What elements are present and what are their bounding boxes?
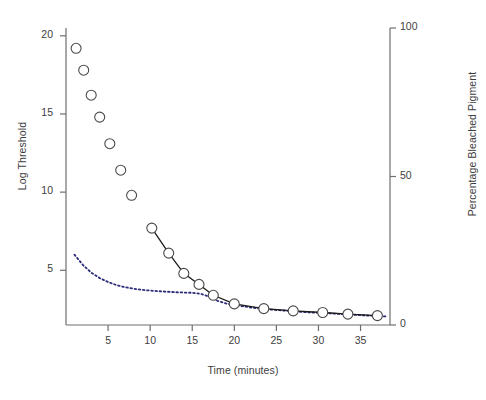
data-point-marker bbox=[229, 299, 239, 309]
data-point-marker bbox=[95, 112, 105, 122]
data-point-marker bbox=[116, 165, 126, 175]
x-tick-label: 25 bbox=[256, 334, 296, 346]
data-point-marker bbox=[194, 279, 204, 289]
data-point-marker bbox=[343, 309, 353, 319]
x-tick-label: 35 bbox=[341, 334, 381, 346]
x-axis-title: Time (minutes) bbox=[163, 364, 323, 376]
data-point-marker bbox=[318, 308, 328, 318]
tick-marks bbox=[60, 28, 396, 331]
y-tick-label-left: 15 bbox=[13, 106, 53, 118]
y-tick-label-right: 50 bbox=[400, 169, 440, 181]
data-point-marker bbox=[105, 139, 115, 149]
y-tick-label-right: 0 bbox=[400, 317, 440, 329]
y-tick-label-left: 20 bbox=[13, 28, 53, 40]
data-point-marker bbox=[71, 43, 81, 53]
figure-container: Log Threshold Percentage Bleached Pigmen… bbox=[0, 0, 486, 400]
data-point-marker bbox=[259, 304, 269, 314]
data-point-marker bbox=[164, 248, 174, 258]
x-tick-label: 10 bbox=[130, 334, 170, 346]
data-point-marker bbox=[288, 306, 298, 316]
data-point-marker bbox=[86, 90, 96, 100]
series-layer bbox=[71, 43, 386, 320]
x-tick-label: 30 bbox=[298, 334, 338, 346]
x-tick-label: 20 bbox=[214, 334, 254, 346]
data-point-marker bbox=[179, 268, 189, 278]
y-tick-label-left: 10 bbox=[13, 184, 53, 196]
data-point-marker bbox=[147, 223, 157, 233]
x-tick-label: 5 bbox=[88, 334, 128, 346]
y-axis-right-title: Percentage Bleached Pigment bbox=[466, 64, 478, 224]
x-tick-label: 15 bbox=[172, 334, 212, 346]
data-point-marker bbox=[127, 190, 137, 200]
data-point-marker bbox=[208, 290, 218, 300]
data-point-marker bbox=[79, 65, 89, 75]
y-tick-label-right: 100 bbox=[400, 20, 440, 32]
axis-lines bbox=[66, 28, 390, 325]
y-tick-label-left: 5 bbox=[13, 262, 53, 274]
data-point-marker bbox=[372, 311, 382, 321]
